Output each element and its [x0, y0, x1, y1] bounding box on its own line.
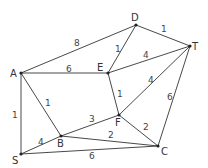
node-E: [106, 71, 109, 74]
node-label: C: [161, 146, 168, 157]
edge-weight: 2: [108, 130, 114, 140]
edge-D-E: [108, 25, 136, 73]
node-S: [19, 152, 22, 155]
edge-weight: 4: [38, 137, 44, 147]
node-C: [156, 144, 159, 147]
edge-weight: 4: [148, 75, 154, 85]
edge-F-C: [119, 115, 158, 146]
graph-diagram: 861111414632246ADTEFBSC: [0, 0, 208, 168]
edge-weight: 6: [66, 64, 72, 74]
edge-A-B: [21, 73, 61, 136]
node-label: E: [97, 62, 103, 73]
edge-weight: 1: [117, 89, 123, 99]
edge-weight: 3: [89, 114, 95, 124]
node-A: [19, 71, 22, 74]
edge-weight: 1: [12, 110, 18, 120]
node-label: A: [10, 68, 17, 79]
node-D: [134, 23, 137, 26]
edge-weight: 4: [143, 50, 149, 60]
edge-weight: 6: [167, 92, 173, 102]
node-label: F: [115, 117, 121, 128]
node-label: D: [131, 12, 139, 23]
edge-weight: 1: [45, 98, 51, 108]
edge-weight: 6: [89, 151, 95, 161]
edge-weight: 1: [115, 44, 121, 54]
edge-weight: 8: [74, 38, 80, 48]
node-label: T: [191, 41, 199, 52]
node-label: B: [57, 138, 64, 149]
graph-canvas: 861111414632246ADTEFBSC: [0, 0, 208, 168]
edge-weight: 1: [161, 24, 167, 34]
node-label: S: [12, 155, 18, 166]
edge-weight: 2: [143, 122, 149, 132]
